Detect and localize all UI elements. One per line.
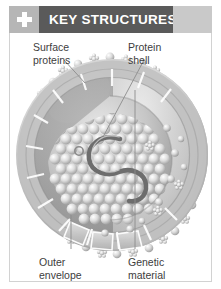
label-protein-shell-line2: shell [128,54,161,67]
label-protein-shell: Protein shell [128,41,161,66]
virus-illustration [9,33,212,282]
label-genetic-material-line2: material [128,269,165,282]
label-surface-proteins-line1: Surface [33,41,70,54]
virus-diagram-svg [9,33,212,282]
header-tail [173,6,212,33]
panel-header: KEY STRUCTURES [9,6,212,33]
label-surface-proteins: Surface proteins [33,41,70,66]
plus-icon [17,12,32,27]
label-outer-envelope-line1: Outer [39,256,82,269]
header-icon-box [9,6,39,33]
label-outer-envelope: Outer envelope [39,256,82,281]
header-title-box: KEY STRUCTURES [39,6,173,33]
label-genetic-material: Genetic material [128,256,165,281]
page-title: KEY STRUCTURES [49,6,177,33]
label-genetic-material-line1: Genetic [128,256,165,269]
plus-icon-vertical-bar [22,12,27,27]
label-protein-shell-line1: Protein [128,41,161,54]
key-structures-panel: KEY STRUCTURES [0,0,221,289]
label-surface-proteins-line2: proteins [33,54,70,67]
label-outer-envelope-line2: envelope [39,269,82,282]
